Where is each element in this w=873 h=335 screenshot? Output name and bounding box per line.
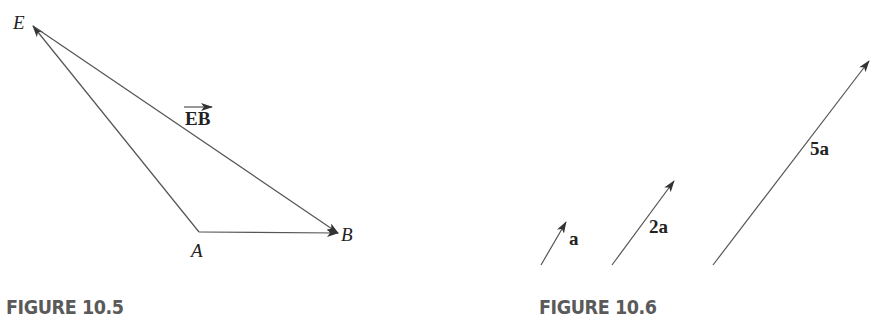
vector-AB [199, 232, 338, 233]
vector-a [541, 222, 566, 265]
point-label-B: B [341, 224, 353, 245]
figure-caption-10-5: FIGURE 10.5 [6, 295, 124, 319]
vector-label-2a: 2a [649, 216, 669, 237]
figure-10-6-diagram: a 2a 5a [541, 61, 869, 265]
vector-AE [33, 26, 199, 232]
figure-10-5-diagram: E A B EB [12, 12, 353, 261]
figure-caption-10-6: FIGURE 10.6 [539, 295, 657, 319]
vector-5a [713, 61, 869, 265]
vector-label-5a: 5a [810, 138, 830, 159]
vector-label-a: a [569, 228, 579, 249]
vector-EB [33, 26, 338, 233]
diagram-canvas: E A B EB a 2a 5a [0, 0, 873, 335]
point-label-A: A [189, 240, 203, 261]
vector-label-EB: EB [185, 108, 211, 129]
point-label-E: E [12, 12, 25, 33]
